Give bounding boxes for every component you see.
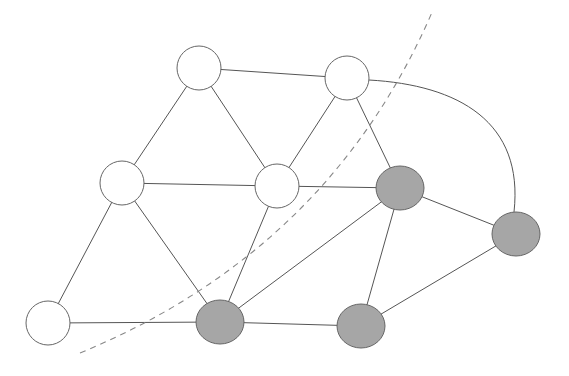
- edge-G-H: [48, 322, 220, 323]
- node-C: [100, 161, 144, 205]
- node-B: [325, 56, 369, 100]
- edge-C-H: [122, 183, 220, 322]
- graph-diagram: [0, 0, 569, 376]
- node-I: [337, 304, 385, 348]
- node-G: [26, 301, 70, 345]
- edge-C-G: [48, 183, 122, 323]
- node-E: [376, 166, 424, 210]
- node-H: [196, 300, 244, 344]
- edge-E-H: [220, 188, 400, 322]
- node-F: [492, 212, 540, 256]
- nodes-layer: [26, 46, 540, 348]
- edge-C-D: [122, 183, 277, 186]
- node-A: [177, 46, 221, 90]
- node-D: [255, 164, 299, 208]
- edge-F-I: [361, 234, 516, 326]
